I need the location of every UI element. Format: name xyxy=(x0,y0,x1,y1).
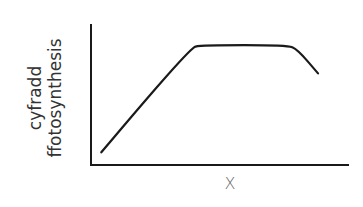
y-axis-label: cyfradd ffotosynthesis xyxy=(0,0,90,207)
x-axis-label: X xyxy=(210,174,250,193)
y-axis-label-line-1: cyfradd xyxy=(25,38,45,157)
y-axis-label-line-2: ffotosynthesis xyxy=(45,38,65,157)
data-line xyxy=(101,45,318,152)
